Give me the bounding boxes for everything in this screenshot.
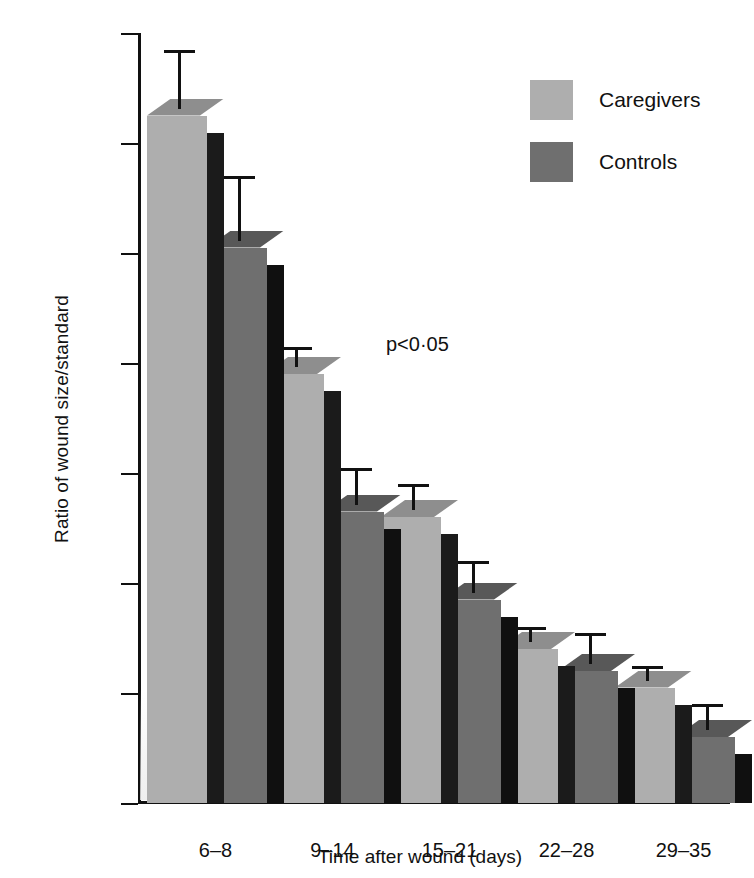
error-bar-stem [238,176,241,241]
error-bar-stem [412,484,415,510]
error-bar-cap [341,468,372,471]
legend-item-caregivers: Caregivers [530,80,701,120]
y-axis-tick [121,143,138,145]
y-axis-tick [121,583,138,585]
error-bar-stem [295,347,298,368]
error-bar-stem [706,704,709,730]
y-axis-tick [121,363,138,365]
error-bar [341,468,372,505]
legend-swatch-caregivers [530,80,573,120]
bar-side-face [207,133,224,804]
significance-annotation: p<0·05 [386,333,449,356]
bar-caregivers [147,116,207,804]
y-axis-tick [121,803,138,805]
error-bar-cap [575,633,606,636]
y-axis-line [138,33,141,804]
bar-side-face [384,529,401,804]
legend-item-controls: Controls [530,142,701,182]
bar-side-face [267,265,284,804]
error-bar-cap [224,176,255,179]
error-bar [632,666,663,681]
y-axis-tick [121,33,138,35]
error-bar-cap [281,347,312,350]
error-bar-cap [458,561,489,564]
error-bar-stem [472,561,475,593]
y-axis-tick [121,473,138,475]
bar-side-face [675,705,692,804]
bar-side-face [558,666,575,803]
error-bar [398,484,429,510]
error-bar-cap [398,484,429,487]
y-axis-tick [121,253,138,255]
bar-side-face [618,688,635,803]
error-bar-cap [515,627,546,630]
legend-label-caregivers: Caregivers [599,88,701,112]
chart-legend: Caregivers Controls [530,80,701,204]
error-bar [515,627,546,642]
error-bar [224,176,255,241]
error-bar [458,561,489,593]
error-bar-cap [164,50,195,53]
y-axis-tick [121,693,138,695]
error-bar-stem [589,633,592,665]
x-axis-tick-label: 29–35 [614,839,754,862]
error-bar [164,50,195,109]
y-axis-title: Ratio of wound size/standard [51,209,73,629]
error-bar [692,704,723,730]
error-bar [575,633,606,665]
error-bar-stem [178,50,181,109]
error-bar-stem [355,468,358,505]
bar-front-face [147,116,207,804]
error-bar [281,347,312,368]
error-bar-cap [632,666,663,669]
legend-swatch-controls [530,142,573,182]
bar-side-face [501,617,518,804]
error-bar-cap [692,704,723,707]
bar-side-face [441,534,458,803]
bar-side-face [735,754,752,803]
legend-label-controls: Controls [599,150,677,174]
bar-side-face [324,391,341,803]
